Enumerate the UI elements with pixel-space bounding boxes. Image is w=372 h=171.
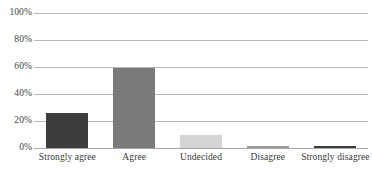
bar-chart: 100% 80% 60% 40% 20% 0% Strongly agreeAg… [0,0,372,171]
bar[interactable] [180,135,222,149]
x-tick-label: Undecided [168,150,235,164]
y-tick-label: 40% [14,89,32,99]
bar-slot [180,13,222,148]
y-tick-label: 20% [14,116,32,126]
y-tick-label: 100% [9,8,32,18]
bars-layer [34,13,368,148]
axis-baseline [34,148,368,149]
bar[interactable] [314,146,356,149]
y-tick-label: 80% [14,35,32,45]
bar-slot [247,13,289,148]
bar-slot [113,13,155,148]
x-tick-label: Strongly agree [34,150,101,164]
bar[interactable] [46,113,88,148]
bar[interactable] [113,68,155,148]
x-tick-label: Strongly disagree [301,150,368,164]
bar-slot [46,13,88,148]
x-axis: Strongly agreeAgreeUndecidedDisagreeStro… [34,150,368,171]
bar[interactable] [247,146,289,149]
y-axis: 100% 80% 60% 40% 20% 0% [0,13,32,148]
y-tick-label: 60% [14,62,32,72]
x-tick-label: Disagree [234,150,301,164]
bar-slot [314,13,356,148]
plot-area [34,13,368,148]
x-tick-label: Agree [101,150,168,164]
y-tick-label: 0% [19,143,32,153]
